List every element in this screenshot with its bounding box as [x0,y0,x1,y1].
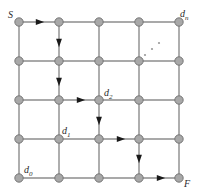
grid-node-r4-c3 [135,174,143,182]
grid-node-r4-c2 [95,174,103,182]
grid-node-r3-c3 [135,135,143,143]
grid-node-r1-c0 [15,57,23,65]
node-label-d1: d1 [62,126,71,139]
arrow-down-col1-row1 [56,39,62,47]
node-label-dn-subscript: n [185,14,189,22]
grid-node-r0-c0 [15,18,23,26]
grid-node-r1-c4 [175,57,183,65]
arrow-right-into-F [157,175,165,181]
grid-node-r0-c1 [55,18,63,26]
arrow-top-right-1 [36,19,44,25]
arrow-down-col1-row2 [56,78,62,86]
node-label-d2: d2 [104,88,113,101]
diagonal-ellipsis-icon [144,42,160,56]
arrow-down-col3-row4 [136,155,142,163]
node-label-d2-subscript: 2 [109,93,113,101]
grid-node-r3-c4 [175,135,183,143]
node-label-dn: dn [180,9,189,22]
grid-node-r1-c3 [135,57,143,65]
grid-node-r3-c2 [95,135,103,143]
node-label-d0: d0 [24,165,33,178]
node-label-d0-subscript: 0 [29,170,33,178]
arrow-down-col2-row3 [96,117,102,125]
grid-node-r2-c2 [95,96,103,104]
node-label-finish-text: F [184,178,190,189]
grid-node-r3-c0 [15,135,23,143]
grid-node-r1-c2 [95,57,103,65]
grid-node-r4-c1 [55,174,63,182]
grid-node-r4-c0 [15,174,23,182]
grid-node-r0-c2 [95,18,103,26]
node-label-d1-subscript: 1 [67,131,71,139]
node-label-finish: F [184,179,190,189]
node-label-start-text: S [8,9,13,20]
ellipsis-dot-1 [151,48,153,50]
arrow-right-row3 [117,136,125,142]
grid-node-r2-c1 [55,96,63,104]
grid-node-r2-c4 [175,96,183,104]
grid-node-r4-c4 [175,174,183,182]
grid-node-r1-c1 [55,57,63,65]
grid-node-r0-c3 [135,18,143,26]
grid-node-r2-c3 [135,96,143,104]
node-label-start: S [8,10,13,20]
ellipsis-dot-0 [144,54,146,56]
grid-node-r2-c0 [15,96,23,104]
ellipsis-dot-2 [158,42,160,44]
grid-graph-figure: Sdnd2d1d0F [0,0,202,195]
arrow-right-into-d2 [77,97,85,103]
